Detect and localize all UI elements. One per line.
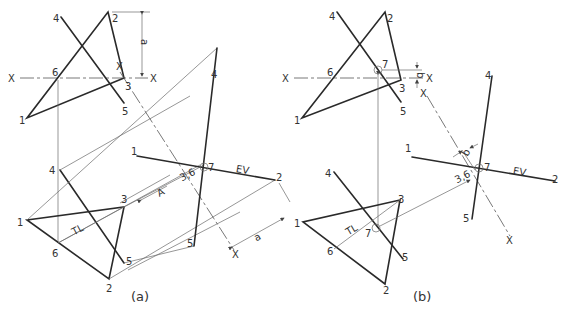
point-label: 1 bbox=[19, 115, 25, 126]
point-label: 2 bbox=[106, 283, 112, 294]
point-label: 1 bbox=[17, 217, 23, 228]
point-label: 7 bbox=[208, 162, 214, 173]
point-label: 4 bbox=[329, 11, 335, 22]
point-label: 3,6 bbox=[453, 168, 472, 185]
fold-label: X bbox=[420, 88, 427, 99]
figure-caption: (b) bbox=[413, 289, 431, 304]
dimension-label: a bbox=[139, 39, 150, 45]
dimension-b-arrow bbox=[470, 144, 478, 148]
point-label: 2 bbox=[387, 13, 393, 24]
fold-line-xx-aux bbox=[120, 72, 234, 250]
edge-view-plane bbox=[137, 156, 275, 180]
point-label: 5 bbox=[402, 252, 408, 263]
point-label: 5 bbox=[126, 256, 132, 267]
point-label: 3 bbox=[121, 194, 127, 205]
point-label: 6 bbox=[52, 67, 58, 78]
point-label: 6 bbox=[327, 67, 333, 78]
point-label: 3 bbox=[399, 83, 405, 94]
plane-triangle-123 bbox=[303, 200, 400, 284]
dimension-extension bbox=[279, 183, 290, 202]
point-label: 1 bbox=[405, 143, 411, 154]
fold-label: X bbox=[506, 235, 513, 246]
point-label: 4 bbox=[325, 168, 331, 179]
figure-a: 4 2 6 3 5 1 X X a 4 3 1 6 5 2 TL A 4 1 7… bbox=[8, 12, 290, 304]
point-label: 1 bbox=[294, 218, 300, 229]
figure-b: 4 2 6 7 3 5 1 X X b 4 3 1 7 6 5 2 TL 4 1… bbox=[282, 11, 558, 304]
point-label: 2 bbox=[552, 174, 558, 185]
figure-b-aux-view bbox=[412, 76, 555, 236]
true-length-label: TL bbox=[343, 222, 360, 238]
figure-a-labels: 4 2 6 3 5 1 X X a 4 3 1 6 5 2 TL A 4 1 7… bbox=[8, 13, 282, 304]
figure-a-front-view bbox=[27, 170, 167, 279]
point-label: 2 bbox=[276, 172, 282, 183]
line-45 bbox=[334, 172, 403, 259]
figure-caption: (a) bbox=[131, 289, 149, 304]
point-label: 1 bbox=[294, 115, 300, 126]
point-label: 3 bbox=[125, 81, 131, 92]
fold-label: X bbox=[426, 73, 433, 84]
point-label: 6 bbox=[327, 246, 333, 257]
line-45 bbox=[60, 170, 124, 263]
dimension-label: a bbox=[252, 231, 263, 244]
projector-7-to-aux bbox=[380, 180, 470, 226]
dimension-label: b bbox=[460, 147, 473, 158]
descriptive-geometry-drawing: 4 2 6 3 5 1 X X a 4 3 1 6 5 2 TL A 4 1 7… bbox=[0, 0, 580, 315]
point-label: 2 bbox=[383, 285, 389, 296]
point-label: 3,6 bbox=[178, 166, 197, 183]
fold-label: X bbox=[150, 73, 157, 84]
edge-view-label: EV bbox=[235, 163, 250, 176]
point-label: 7 bbox=[382, 59, 388, 70]
line-45 bbox=[337, 12, 401, 102]
point-label: 7 bbox=[365, 228, 371, 239]
point-label: 3 bbox=[398, 194, 404, 205]
figure-b-front-view bbox=[303, 172, 470, 284]
fold-label: X bbox=[116, 61, 123, 72]
point-label: 2 bbox=[112, 13, 118, 24]
point-label: 7 bbox=[484, 162, 490, 173]
point-label: 5 bbox=[400, 106, 406, 117]
dimension-label: b bbox=[415, 72, 426, 78]
fold-label: X bbox=[282, 73, 289, 84]
figure-b-top-view bbox=[294, 12, 425, 228]
point-label: 4 bbox=[211, 69, 217, 80]
point-label: 4 bbox=[53, 13, 59, 24]
fold-label: X bbox=[232, 249, 239, 260]
point-label: 5 bbox=[463, 213, 469, 224]
point-label: 4 bbox=[49, 165, 55, 176]
point-label: 5 bbox=[187, 238, 193, 249]
point-label: 6 bbox=[52, 248, 58, 259]
point-label: 1 bbox=[131, 146, 137, 157]
line-45-aux bbox=[472, 76, 492, 219]
edge-view-label: EV bbox=[512, 165, 527, 178]
figure-b-labels: 4 2 6 7 3 5 1 X X b 4 3 1 7 6 5 2 TL 4 1… bbox=[282, 11, 558, 304]
point-label: 4 bbox=[485, 70, 491, 81]
plane-triangle-123 bbox=[27, 12, 124, 118]
point-label: 5 bbox=[122, 106, 128, 117]
fold-label: X bbox=[8, 73, 15, 84]
